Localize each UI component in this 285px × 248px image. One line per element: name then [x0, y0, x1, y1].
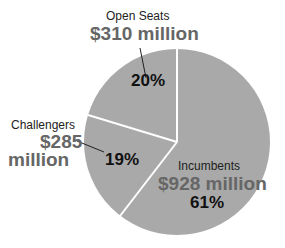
challengers-category-label: Challengers	[11, 118, 75, 132]
incumbents-amount-label: $928 million	[158, 174, 267, 194]
open-seats-amount-label: $310 million	[90, 24, 199, 44]
open-seats-category-label: Open Seats	[106, 9, 169, 23]
challengers-percent-label: 19%	[105, 150, 139, 170]
incumbents-percent-label: 61%	[190, 193, 224, 213]
challengers-amount-line2: million	[8, 150, 69, 170]
open-seats-percent-label: 20%	[131, 71, 165, 91]
incumbents-category-label: Incumbents	[178, 159, 240, 173]
